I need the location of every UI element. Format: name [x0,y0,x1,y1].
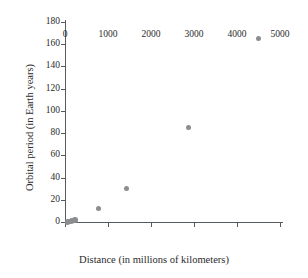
x-tick-mark [237,222,238,227]
plot-area: 020406080100120140160180 010002000300040… [65,22,280,222]
y-tick-label: 160 [46,39,60,49]
x-tick-mark [194,222,195,227]
data-point [186,125,192,131]
x-axis-line [62,222,283,223]
x-tick-mark [151,222,152,227]
y-tick-label: 100 [46,106,60,116]
y-tick-label: 120 [46,84,60,94]
y-tick-label: 40 [51,173,61,183]
data-point [256,36,262,42]
x-tick-mark [108,222,109,227]
x-axis-label: Distance (in millions of kilometers) [0,254,308,265]
y-tick-label: 180 [46,17,60,27]
y-tick-label: 140 [46,62,60,72]
y-tick-label: 20 [51,195,61,205]
data-point [96,206,102,212]
y-tick-label: 0 [55,217,60,227]
data-point [124,186,130,192]
x-tick-mark [280,222,281,227]
y-tick-label: 60 [51,151,61,161]
data-points-layer [65,22,280,222]
y-tick-label: 80 [51,128,61,138]
data-point [72,217,78,223]
y-axis-label: Orbital period (in Earth years) [24,23,35,233]
scatter-chart-figure: 020406080100120140160180 010002000300040… [0,0,308,278]
